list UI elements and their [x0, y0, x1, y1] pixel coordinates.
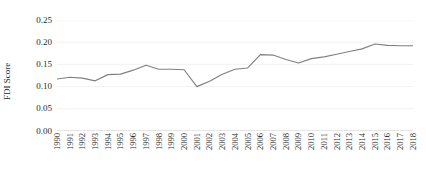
x-tick-label: 1991 — [66, 133, 75, 150]
x-tick-label: 1997 — [142, 133, 151, 150]
y-tick-label: 0.15 — [12, 60, 52, 69]
x-tick-label: 2001 — [193, 133, 202, 150]
x-tick-label: 2005 — [244, 133, 253, 150]
x-tick-label: 2006 — [256, 133, 265, 150]
x-tick-label: 2012 — [333, 133, 342, 150]
x-tick-label: 2009 — [294, 133, 303, 150]
x-tick-label: 1993 — [91, 133, 100, 150]
x-axis-tick-labels: 1990199119921993199419951996199719981999… — [57, 133, 413, 195]
plot-area — [57, 20, 413, 131]
x-tick-label: 1995 — [116, 133, 125, 150]
y-axis-tick-labels: 0.250.200.150.100.050.00 — [8, 0, 52, 195]
x-tick-label: 2016 — [383, 133, 392, 150]
x-tick-label: 1998 — [155, 133, 164, 150]
x-tick-label: 2004 — [231, 133, 240, 150]
x-tick-label: 2007 — [269, 133, 278, 150]
x-tick-label: 1994 — [104, 133, 113, 150]
x-tick-label: 1996 — [129, 133, 138, 150]
y-tick-label: 0.20 — [12, 38, 52, 47]
gridlines — [57, 20, 413, 131]
fdi-score-line — [57, 44, 413, 87]
x-tick-label: 2018 — [409, 133, 418, 150]
y-tick-label: 0.00 — [12, 127, 52, 136]
x-tick-label: 2013 — [345, 133, 354, 150]
x-tick-label: 2015 — [371, 133, 380, 150]
chart-svg — [57, 20, 413, 131]
x-tick-label: 1990 — [53, 133, 62, 150]
fdi-score-line-chart: FDI Score 0.250.200.150.100.050.00 19901… — [0, 0, 426, 195]
y-tick-label: 0.10 — [12, 82, 52, 91]
x-tick-label: 1999 — [167, 133, 176, 150]
x-tick-label: 2003 — [218, 133, 227, 150]
x-tick-label: 2010 — [307, 133, 316, 150]
x-tick-label: 2011 — [320, 133, 329, 150]
x-tick-label: 2000 — [180, 133, 189, 150]
y-tick-label: 0.25 — [12, 16, 52, 25]
x-tick-label: 2002 — [205, 133, 214, 150]
x-tick-label: 2014 — [358, 133, 367, 150]
x-tick-label: 2017 — [396, 133, 405, 150]
x-tick-label: 2008 — [282, 133, 291, 150]
x-tick-label: 1992 — [78, 133, 87, 150]
y-tick-label: 0.05 — [12, 104, 52, 113]
